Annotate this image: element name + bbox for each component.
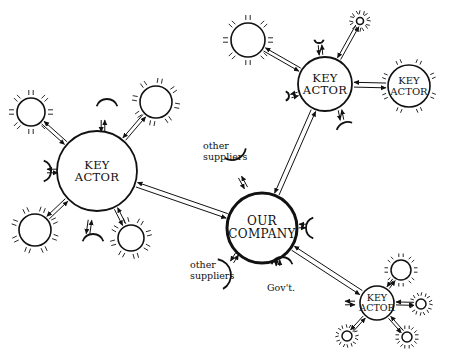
sunburst-ray [428, 308, 431, 309]
sunburst-ray [23, 209, 25, 214]
sunburst-ray [123, 218, 124, 223]
edge-left-satellite-arrow-out [44, 121, 67, 141]
sunburst-ray [355, 335, 358, 336]
sunburst-ray [336, 332, 339, 334]
sunburst-ray [414, 341, 416, 343]
sunburst-ray [229, 53, 233, 57]
sunburst-ray [174, 107, 179, 108]
sunburst-ray [335, 336, 338, 337]
sunburst-ray [27, 207, 29, 212]
sunburst-ray [412, 310, 415, 312]
edge-top-satellite-arrow-in [264, 51, 299, 71]
arc-arrow [291, 96, 298, 98]
sunburst-ray [12, 236, 17, 238]
sunburst-ray [400, 344, 402, 346]
satellite-node [357, 18, 364, 25]
arc-arrow [90, 220, 92, 234]
sunburst-ray [51, 218, 56, 220]
sunburst-ray [427, 296, 430, 298]
sunburst-ray [157, 78, 158, 83]
sunburst-ray [13, 220, 18, 222]
sunburst-ray [342, 325, 343, 328]
stakeholder-arc [306, 218, 313, 239]
sunburst-ray [396, 107, 397, 111]
sunburst-ray [410, 306, 413, 308]
sunburst-ray [39, 207, 41, 212]
sunburst-ray [359, 10, 360, 14]
sunburst-ray [53, 222, 58, 224]
sunburst-ray [430, 97, 434, 98]
edge-top-satellite-arrow-out [341, 27, 359, 60]
sunburst-ray [150, 120, 151, 125]
sunburst-ray [339, 342, 341, 345]
sunburst-ray [52, 239, 57, 241]
sunburst-ray [45, 98, 49, 102]
arc-arrow [86, 220, 88, 234]
sunburst-ray [397, 341, 399, 343]
arc-arrow [318, 45, 319, 55]
sunburst-ray [146, 244, 150, 247]
sunburst-ray [175, 103, 180, 104]
sunburst-ray [350, 17, 354, 18]
sunburst-ray [173, 90, 177, 93]
sunburst-ray [349, 325, 351, 328]
sunburst-ray [432, 93, 436, 94]
sunburst-ray [384, 73, 388, 74]
sunburst-ray [349, 21, 353, 22]
other-suppliers-bottom-label: other suppliers [190, 260, 234, 282]
key-actor-bottom-right-label: KEY ACTOR [359, 293, 394, 313]
arc-arrow [291, 92, 298, 94]
sunburst-ray [17, 126, 21, 130]
sunburst-ray [128, 217, 129, 222]
sunburst-ray [388, 260, 390, 262]
satellite-node [231, 23, 265, 57]
sunburst-ray [409, 257, 411, 259]
satellite-node [402, 332, 412, 342]
edge-keyactor-left-company-arrow-out [136, 187, 226, 218]
sunburst-ray [425, 293, 426, 296]
sunburst-ray [110, 240, 115, 241]
sunburst-ray [411, 344, 413, 346]
sunburst-ray [44, 208, 46, 213]
sunburst-ray [410, 299, 413, 300]
sunburst-ray [169, 116, 172, 120]
arc-arrow [322, 45, 323, 55]
stakeholder-arc [286, 91, 289, 100]
satellite-node [118, 225, 144, 251]
sunburst-ray [382, 93, 386, 95]
network-diagram: OUR COMPANY KEY ACTOR KEY ACTOR KEY ACTO… [0, 0, 449, 362]
sunburst-ray [414, 330, 416, 332]
sunburst-ray [14, 98, 18, 102]
sunburst-ray [114, 226, 118, 229]
sunburst-ray [420, 61, 421, 65]
sunburst-ray [367, 20, 371, 21]
our-company-label-line2: COMPANY [228, 228, 295, 241]
sunburst-ray [261, 56, 265, 60]
sunburst-ray [14, 240, 19, 242]
sunburst-ray [420, 312, 421, 315]
our-company-label-line1: OUR [228, 215, 295, 228]
edge-keyactor-top-topright-arrow-in [354, 82, 386, 83]
sunburst-ray [411, 327, 413, 329]
sunburst-ray [264, 24, 268, 28]
sunburst-ray [133, 96, 138, 97]
sunburst-ray [154, 121, 155, 126]
sunburst-ray [420, 107, 422, 111]
edge-top-satellite-arrow-out [265, 48, 300, 68]
sunburst-ray [144, 248, 148, 251]
sunburst-ray [355, 338, 358, 340]
sunburst-ray [229, 24, 233, 28]
sunburst-ray [367, 17, 370, 19]
edge-keyactor-bottomright-company-arrow-out [294, 246, 362, 290]
edge-keyactor-bottomright-company-arrow-in [292, 250, 360, 294]
sunburst-ray [29, 249, 31, 254]
stakeholder-arc [83, 234, 104, 241]
satellite-node [140, 86, 172, 118]
stakeholder-arc [337, 122, 352, 130]
satellite-node [342, 331, 352, 341]
sunburst-ray [401, 109, 402, 113]
sunburst-ray [41, 95, 45, 99]
key-actor-top-label: KEY ACTOR [303, 72, 347, 96]
sunburst-ray [364, 11, 365, 15]
sunburst-ray [137, 253, 138, 258]
